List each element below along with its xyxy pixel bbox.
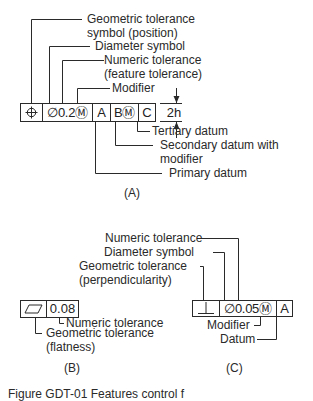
frame-a-cell-diameter-tolerance: ∅0.2Ⓜ (43, 104, 92, 121)
callout-c-geometric-line2: (perpendicularity) (79, 274, 172, 287)
callout-c-numeric-tolerance: Numeric tolerance (105, 232, 202, 245)
callout-numeric-tolerance-line1: Numeric tolerance (104, 54, 201, 67)
callout-secondary-datum-line2: modifier (160, 153, 203, 166)
frame-a-cell-primary-datum: A (93, 104, 110, 121)
callout-b-geometric-line2: (flatness) (46, 341, 95, 354)
panel-b-label: (B) (64, 362, 80, 375)
frame-c-cell-datum: A (277, 300, 292, 317)
callout-tertiary-datum: Tertiary datum (152, 125, 228, 138)
callout-b-geometric-line1: Geometric tolerance (46, 327, 154, 340)
callout-primary-datum: Primary datum (169, 167, 247, 180)
callout-c-datum: Datum (220, 333, 255, 346)
callout-c-geometric-line1: Geometric tolerance (79, 260, 187, 273)
callout-numeric-tolerance-line2: (feature tolerance) (104, 68, 202, 81)
perpendicularity-icon (198, 302, 214, 314)
figure-caption: Figure GDT-01 Features control f (8, 387, 184, 401)
flatness-icon (25, 305, 42, 313)
callout-diameter-symbol: Diameter symbol (95, 40, 185, 53)
callout-c-modifier: Modifier (207, 319, 250, 332)
callout-secondary-datum-line1: Secondary datum with (160, 139, 279, 152)
callout-modifier: Modifier (112, 82, 155, 95)
panel-c-label: (C) (226, 362, 243, 375)
frame-a-cell-tertiary-datum: C (139, 104, 155, 121)
frame-a-cell-secondary-datum: BⓂ (111, 104, 138, 121)
callout-c-diameter-symbol: Diameter symbol (104, 246, 194, 259)
panel-a-label: (A) (124, 187, 140, 200)
frame-b-cell-tolerance: 0.08 (47, 300, 78, 317)
frame-c-cell-diameter-tolerance: ∅0.05Ⓜ (220, 300, 276, 317)
dimension-2h: 2h (163, 104, 185, 121)
callout-geometric-symbol-line1: Geometric tolerance (87, 13, 195, 26)
position-icon (26, 107, 38, 119)
